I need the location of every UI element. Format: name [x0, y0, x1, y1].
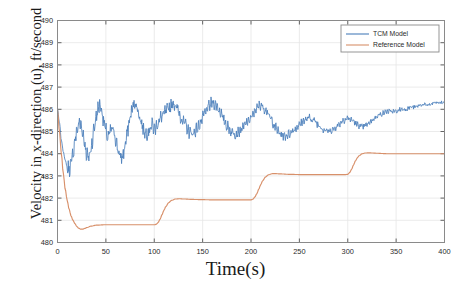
y-tick-label: 483 [41, 172, 53, 181]
x-tick-label: 200 [245, 247, 257, 256]
y-tick-label: 488 [41, 61, 53, 70]
y-tick-label: 485 [41, 127, 53, 136]
y-tick-label: 482 [41, 194, 53, 203]
x-tick-label: 100 [148, 247, 160, 256]
y-tick-label: 480 [41, 238, 53, 247]
y-tick-label: 490 [41, 16, 53, 25]
x-tick-label: 250 [293, 247, 305, 256]
y-tick-label: 487 [41, 83, 53, 92]
y-tick-label: 481 [41, 216, 53, 225]
x-tick-label: 350 [390, 247, 402, 256]
gridlines [58, 21, 445, 243]
x-tick-label: 150 [196, 247, 208, 256]
x-tick-label: 50 [102, 247, 110, 256]
legend-label: TCM Model [373, 30, 409, 37]
chart-figure: Velocity in x-direction (u), ft/second T… [0, 0, 471, 294]
x-tick-label: 300 [342, 247, 354, 256]
legend-label: Reference Model [373, 41, 425, 48]
x-tick-label: 0 [55, 247, 59, 256]
y-tick-label: 486 [41, 105, 53, 114]
plot-canvas: 4804814824834844854864874884894900501001… [0, 0, 471, 294]
x-tick-label: 400 [438, 247, 450, 256]
y-tick-label: 489 [41, 38, 53, 47]
y-tick-label: 484 [41, 149, 53, 158]
legend[interactable]: TCM ModelReference Model [341, 25, 439, 52]
